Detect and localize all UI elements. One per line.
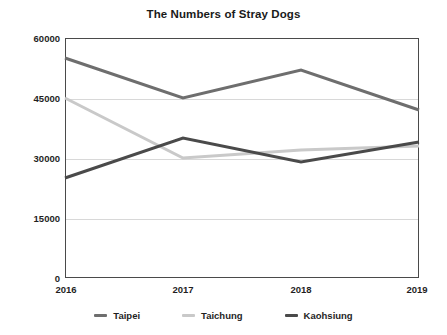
series-layer (65, 38, 419, 278)
legend-swatch-icon-taichung (182, 314, 195, 317)
y-axis-tick-0: 0 (0, 273, 60, 284)
legend-label-taichung: Taichung (201, 310, 243, 321)
y-axis-tick-45000: 45000 (0, 93, 60, 104)
legend-item-taipei[interactable]: Taipei (94, 310, 140, 321)
x-axis-tick-2019: 2019 (406, 284, 427, 295)
y-axis-tick-15000: 15000 (0, 213, 60, 224)
x-axis-tick-2018: 2018 (290, 284, 311, 295)
legend-item-taichung[interactable]: Taichung (182, 310, 243, 321)
stray-dogs-line-chart: The Numbers of Stray Dogs 60000 45000 30… (0, 0, 447, 335)
legend-item-kaohsiung[interactable]: Kaohsiung (285, 310, 353, 321)
series-line-taipei (65, 58, 419, 110)
series-line-kaohsiung (65, 138, 419, 178)
x-axis-tick-2017: 2017 (172, 284, 193, 295)
legend-label-taipei: Taipei (113, 310, 140, 321)
x-axis-tick-2016: 2016 (55, 284, 76, 295)
legend-swatch-icon-kaohsiung (285, 314, 298, 317)
y-axis-tick-60000: 60000 (0, 33, 60, 44)
legend-label-kaohsiung: Kaohsiung (304, 310, 353, 321)
chart-legend: Taipei Taichung Kaohsiung (0, 310, 447, 321)
chart-title: The Numbers of Stray Dogs (0, 8, 447, 20)
y-axis-tick-30000: 30000 (0, 153, 60, 164)
legend-swatch-icon-taipei (94, 314, 107, 317)
